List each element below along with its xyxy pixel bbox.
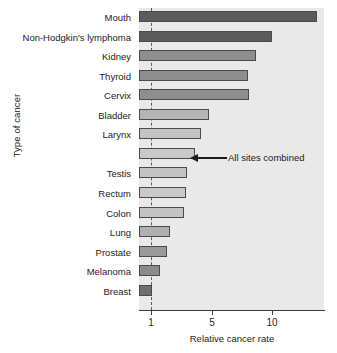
bar [139,226,170,237]
x-axis-tick-label: 10 [257,317,287,328]
category-label: Melanoma [0,266,131,277]
x-axis-tick-label: 1 [136,317,166,328]
bar [139,31,272,42]
x-axis-tick [272,310,273,315]
x-axis-title: Relative cancer rate [139,333,325,344]
x-axis-line [139,310,325,311]
bar [139,70,248,81]
x-axis-tick [151,310,152,315]
bar [139,265,160,276]
category-label: Non-Hodgkin's lymphoma [0,32,131,43]
bar [139,89,249,100]
bar [139,246,167,257]
bar [139,187,186,198]
bar [139,109,209,120]
bar [139,285,152,296]
category-label: Thyroid [0,71,131,82]
category-label: Cervix [0,90,131,101]
category-label: Kidney [0,51,131,62]
x-axis-tick [212,310,213,315]
category-label: Larynx [0,129,131,140]
bar [139,148,195,159]
all-sites-annotation-label: All sites combined [228,152,305,163]
category-label: Prostate [0,247,131,258]
category-label: Lung [0,227,131,238]
chart-figure: Type of cancer MouthNon-Hodgkin's lympho… [0,0,337,353]
category-label: Colon [0,208,131,219]
category-label: Breast [0,286,131,297]
bar [139,167,187,178]
category-label: Mouth [0,12,131,23]
category-label: Bladder [0,110,131,121]
category-label: Testis [0,168,131,179]
bar [139,50,256,61]
category-label-column: MouthNon-Hodgkin's lymphomaKidneyThyroid… [0,8,135,310]
bar [139,11,317,22]
bar [139,207,184,218]
x-axis-tick-label: 5 [197,317,227,328]
bar [139,128,201,139]
category-label: Rectum [0,188,131,199]
all-sites-arrow-icon [197,157,227,159]
